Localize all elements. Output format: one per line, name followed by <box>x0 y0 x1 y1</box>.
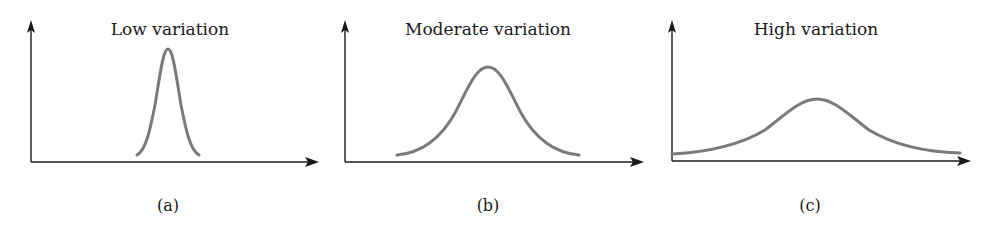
panel-a: Low variation (a) <box>27 19 319 215</box>
panel-a-title: Low variation <box>111 19 229 39</box>
variation-figure: Low variation (a) Moderate variation (b)… <box>0 0 989 228</box>
panel-c-bell-curve <box>672 99 960 154</box>
panel-c-caption: (c) <box>799 196 820 215</box>
panel-b: Moderate variation (b) <box>341 19 644 215</box>
panel-a-caption: (a) <box>157 196 179 215</box>
panel-b-caption: (b) <box>477 196 500 215</box>
panel-b-bell-curve <box>397 67 579 155</box>
panel-b-title: Moderate variation <box>405 19 571 39</box>
panel-c: High variation (c) <box>668 19 971 215</box>
panel-a-bell-curve <box>137 49 199 155</box>
panel-c-title: High variation <box>754 19 878 39</box>
